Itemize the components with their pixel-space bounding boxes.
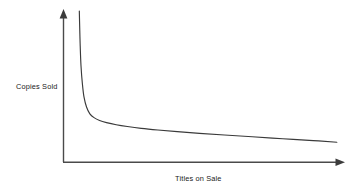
long-tail-chart: Copies Sold Titles on Sale — [0, 0, 353, 193]
chart-background — [0, 0, 353, 193]
y-axis-label: Copies Sold — [16, 82, 58, 91]
x-axis-label: Titles on Sale — [175, 174, 222, 183]
chart-canvas: Copies Sold Titles on Sale — [0, 0, 353, 193]
